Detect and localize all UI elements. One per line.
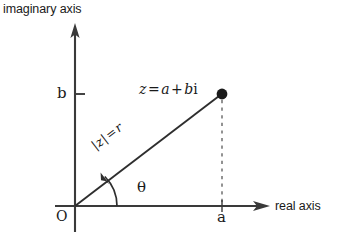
point-z-imag-coefficient: b: [184, 81, 193, 97]
real-axis-tick-label-a: a: [217, 208, 226, 226]
point-z-marker: [217, 89, 228, 100]
imaginary-axis-tick-label-b: b: [57, 84, 67, 102]
angle-theta-label: θ: [137, 178, 146, 196]
imaginary-axis-label: imaginary axis: [3, 2, 82, 16]
origin-label: O: [56, 208, 67, 224]
point-z-label: z=a+bi: [139, 81, 198, 97]
point-z-imaginary-unit: i: [193, 81, 197, 97]
point-z-plus: +: [169, 81, 184, 97]
real-axis-label: real axis: [275, 199, 321, 213]
point-z-equals: =: [146, 81, 161, 97]
